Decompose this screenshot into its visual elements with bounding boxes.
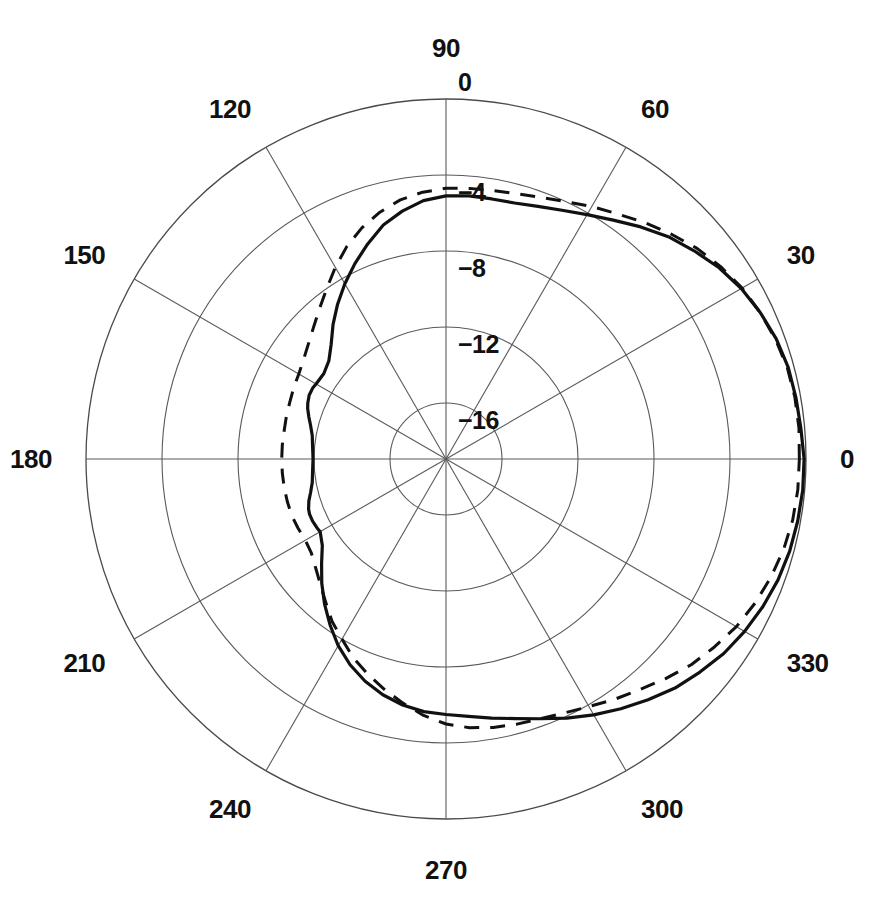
angle-label-60: 60	[641, 94, 669, 124]
angle-label-300: 300	[641, 794, 683, 824]
angle-label-270: 270	[425, 855, 467, 885]
radial-label-minus8: −8	[458, 254, 486, 282]
grid-spoke-300	[446, 459, 626, 771]
grid-spoke-210	[134, 459, 446, 639]
angle-label-210: 210	[63, 648, 105, 678]
radial-label-minus12: −12	[458, 330, 499, 358]
angle-label-0: 0	[840, 444, 854, 474]
angle-label-120: 120	[209, 94, 251, 124]
grid-spoke-330	[446, 459, 758, 639]
grid-spokes	[86, 99, 806, 819]
angle-label-150: 150	[63, 240, 105, 270]
grid-spoke-240	[266, 459, 446, 771]
angle-label-180: 180	[10, 444, 52, 474]
radial-tick-labels: 0−4−8−12−16	[458, 68, 499, 434]
angle-label-30: 30	[787, 240, 815, 270]
radial-label-minus4: −4	[458, 178, 486, 206]
polar-plot-canvas: 0306090120150180210240270300330 0−4−8−12…	[0, 0, 877, 910]
angle-label-240: 240	[209, 794, 251, 824]
angle-label-330: 330	[787, 648, 829, 678]
grid-spoke-150	[134, 279, 446, 459]
radial-label-minus16: −16	[458, 406, 499, 434]
radial-label-0: 0	[458, 68, 471, 96]
series-dashed	[282, 188, 800, 727]
polar-chart: 0306090120150180210240270300330 0−4−8−12…	[0, 0, 877, 910]
angle-label-90: 90	[432, 33, 460, 63]
